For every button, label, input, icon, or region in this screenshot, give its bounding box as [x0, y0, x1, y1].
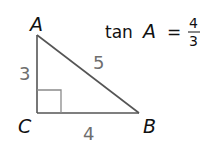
right-angle-marker [37, 90, 61, 113]
equation-var: A [141, 20, 156, 42]
side-label-cb: 4 [83, 123, 94, 144]
equation-equals: = [167, 22, 181, 42]
fraction-denominator: 3 [189, 33, 198, 49]
vertex-label-c: C [18, 115, 32, 137]
triangle-diagram: A C B 3 5 4 tan A = 4 3 [0, 0, 224, 145]
fraction-numerator: 4 [189, 15, 198, 31]
tan-equation: tan A = 4 3 [105, 15, 200, 49]
vertex-label-a: A [28, 13, 43, 35]
side-label-ab: 5 [93, 52, 104, 73]
equation-func: tan [105, 22, 133, 42]
side-label-ac: 3 [19, 63, 30, 84]
vertex-label-b: B [143, 115, 156, 137]
side-ab [37, 35, 139, 113]
